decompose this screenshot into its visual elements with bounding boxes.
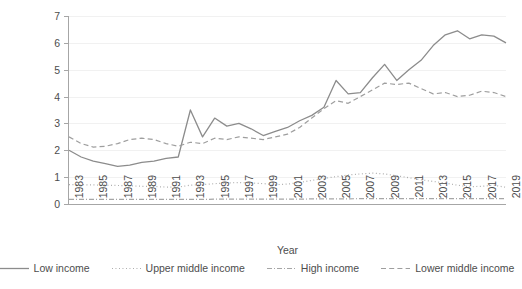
legend-swatch-icon <box>381 264 410 273</box>
x-tick-label: 2011 <box>414 175 425 209</box>
legend-swatch-icon <box>112 264 141 273</box>
y-tick-label-wrap: 4 <box>34 92 60 102</box>
x-tick-label: 1989 <box>147 175 158 209</box>
x-axis-title: Year <box>69 244 506 256</box>
legend-item-high-income[interactable]: High income <box>267 262 359 274</box>
y-tick-label-wrap: 3 <box>34 118 60 128</box>
series-line-low-income <box>69 31 506 167</box>
y-tick-label: 2 <box>36 145 60 155</box>
chart-legend: Low incomeUpper middle incomeHigh income… <box>0 258 514 278</box>
x-tick-label: 1991 <box>171 175 182 209</box>
x-tick-label: 2015 <box>462 175 473 209</box>
y-tick-label-wrap: 2 <box>34 145 60 155</box>
x-tick-label: 1999 <box>268 175 279 209</box>
legend-swatch-icon <box>267 264 296 273</box>
x-tick-label: 2013 <box>438 175 449 209</box>
legend-swatch-icon <box>0 264 29 273</box>
x-tick-label: 1983 <box>74 175 85 209</box>
x-tick-label: 1985 <box>98 175 109 209</box>
x-tick-label: 1993 <box>195 175 206 209</box>
x-tick-label: 2001 <box>293 175 304 209</box>
x-tick-label: 2019 <box>511 175 522 209</box>
y-tick-label: 1 <box>36 172 60 182</box>
x-tick-label: 2003 <box>317 175 328 209</box>
legend-item-label: Low income <box>34 262 90 274</box>
x-tick-label: 2017 <box>487 175 498 209</box>
y-tick-label: 0 <box>36 199 60 209</box>
x-tick-label: 1995 <box>220 175 231 209</box>
y-tick-label-wrap: 7 <box>34 11 60 21</box>
legend-item-label: Upper middle income <box>146 262 245 274</box>
legend-item-low-income[interactable]: Low income <box>0 262 90 274</box>
legend-item-upper-middle-income[interactable]: Upper middle income <box>112 262 245 274</box>
legend-item-label: High income <box>301 262 359 274</box>
y-tick-label: 3 <box>36 118 60 128</box>
y-tick-label-wrap: 5 <box>34 65 60 75</box>
y-tick-label-wrap: 1 <box>34 172 60 182</box>
y-tick-label: 4 <box>36 92 60 102</box>
y-tick-label: 5 <box>36 65 60 75</box>
y-tick-label: 6 <box>36 38 60 48</box>
legend-item-label: Lower middle income <box>415 262 514 274</box>
legend-item-lower-middle-income[interactable]: Lower middle income <box>381 262 514 274</box>
x-tick-label: 1987 <box>123 175 134 209</box>
y-tick-label-wrap: 6 <box>34 38 60 48</box>
y-tick-label: 7 <box>36 11 60 21</box>
x-tick-label: 2005 <box>341 175 352 209</box>
x-tick-label: 2007 <box>365 175 376 209</box>
series-line-lower-middle-income <box>69 83 506 147</box>
y-tick-label-wrap: 0 <box>34 199 60 209</box>
x-tick-label: 1997 <box>244 175 255 209</box>
x-tick-label: 2009 <box>390 175 401 209</box>
